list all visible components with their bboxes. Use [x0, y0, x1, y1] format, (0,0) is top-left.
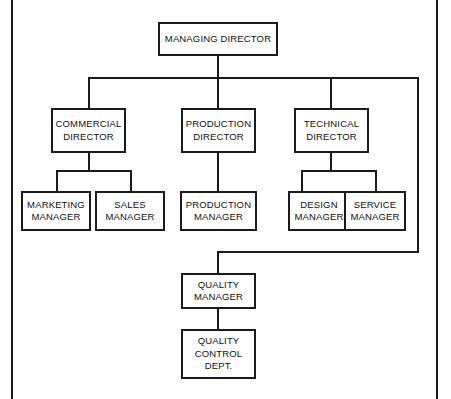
- node-service-manager[interactable]: SERVICE MANAGER: [344, 191, 406, 231]
- connector-production-stem: [217, 152, 219, 192]
- connector-commercial-stem: [88, 152, 90, 171]
- connector-drop-commercial: [88, 77, 90, 108]
- connector-quality-bus: [217, 251, 419, 253]
- node-label-line: PRODUCTION: [186, 118, 251, 131]
- connector-drop-technical: [330, 77, 332, 108]
- node-technical-director[interactable]: TECHNICAL DIRECTOR: [294, 108, 369, 153]
- node-marketing-manager[interactable]: MARKETING MANAGER: [21, 191, 91, 231]
- node-label-line: MANAGER: [350, 211, 399, 224]
- node-label-line: MANAGER: [105, 211, 154, 224]
- node-quality-control-dept[interactable]: QUALITY CONTROL DEPT.: [181, 329, 256, 379]
- node-label-line: PRODUCTION: [186, 199, 251, 212]
- node-label-line: DIRECTOR: [306, 131, 357, 144]
- node-label-line: QUALITY: [198, 335, 240, 348]
- connector-commercial-bus: [56, 170, 132, 172]
- node-label-line: DEPT.: [205, 360, 233, 373]
- connector-drop-design: [301, 170, 303, 192]
- node-commercial-director[interactable]: COMMERCIAL DIRECTOR: [51, 108, 126, 153]
- node-label-line: MANAGER: [194, 291, 243, 304]
- node-label-line: TECHNICAL: [304, 118, 359, 131]
- connector-main-bus: [88, 77, 419, 79]
- connector-md-stem: [217, 55, 219, 78]
- page-frame-left-rule: [11, 0, 13, 399]
- node-managing-director[interactable]: MANAGING DIRECTOR: [158, 22, 278, 56]
- page-frame-right-rule: [436, 0, 438, 399]
- connector-drop-quality-riser: [417, 77, 419, 253]
- connector-drop-quality-manager: [217, 251, 219, 274]
- node-label-line: COMMERCIAL: [56, 118, 122, 131]
- org-chart-canvas: MANAGING DIRECTOR COMMERCIAL DIRECTOR PR…: [0, 0, 451, 399]
- node-label-line: DIRECTOR: [63, 131, 114, 144]
- node-sales-manager[interactable]: SALES MANAGER: [95, 191, 165, 231]
- connector-drop-service: [375, 170, 377, 192]
- node-label-line: MANAGER: [194, 211, 243, 224]
- node-label-line: CONTROL: [195, 348, 243, 361]
- node-label-line: MANAGER: [294, 211, 343, 224]
- connector-quality-to-dept: [217, 308, 219, 330]
- node-production-director[interactable]: PRODUCTION DIRECTOR: [181, 108, 256, 153]
- node-label-line: MANAGER: [31, 211, 80, 224]
- connector-technical-bus: [301, 170, 377, 172]
- node-label-line: SERVICE: [354, 199, 397, 212]
- connector-drop-production: [217, 77, 219, 108]
- node-label-line: DESIGN: [300, 199, 337, 212]
- node-label-line: DIRECTOR: [193, 131, 244, 144]
- node-quality-manager[interactable]: QUALITY MANAGER: [181, 273, 256, 309]
- node-label-line: SALES: [114, 199, 145, 212]
- node-design-manager[interactable]: DESIGN MANAGER: [288, 191, 350, 231]
- connector-technical-stem: [330, 152, 332, 171]
- connector-drop-sales: [130, 170, 132, 192]
- connector-drop-marketing: [56, 170, 58, 192]
- node-production-manager[interactable]: PRODUCTION MANAGER: [180, 191, 257, 231]
- node-label-line: MARKETING: [27, 199, 85, 212]
- node-label-line: MANAGING DIRECTOR: [165, 33, 271, 46]
- node-label-line: QUALITY: [198, 279, 240, 292]
